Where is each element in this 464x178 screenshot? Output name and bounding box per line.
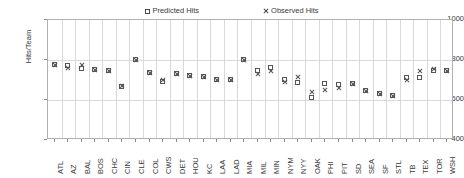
x-tick-label-laa: LAA xyxy=(219,160,227,174)
x-tick-mark xyxy=(135,139,136,142)
data-point-cross-mia xyxy=(241,57,247,63)
x-tick-mark xyxy=(81,139,82,142)
x-tick-mark xyxy=(176,139,177,142)
vertical-gridline xyxy=(278,20,279,138)
x-tick-label-tex: TEX xyxy=(422,159,430,174)
data-point-cross-cws xyxy=(160,77,166,83)
x-tick-mark xyxy=(203,139,204,142)
data-point-cross-sf xyxy=(377,91,383,97)
vertical-gridline xyxy=(373,20,374,138)
data-point-cross-tex xyxy=(417,68,423,74)
data-point-cross-chc xyxy=(106,68,112,74)
plot-area xyxy=(47,19,453,139)
vertical-gridline xyxy=(440,20,441,138)
x-tick-label-hou: HOU xyxy=(192,157,200,174)
data-point-cross-col xyxy=(147,70,153,76)
data-point-cross-tor xyxy=(431,66,437,72)
data-point-square-oak xyxy=(309,95,314,100)
data-point-cross-cle xyxy=(133,57,139,63)
x-tick-mark xyxy=(243,139,244,142)
x-tick-mark xyxy=(406,139,407,142)
vertical-gridline xyxy=(143,20,144,138)
legend-entry-observed-hits: Observed Hits xyxy=(263,7,319,15)
x-tick-mark xyxy=(121,139,122,142)
legend-label-predicted-hits: Predicted Hits xyxy=(152,7,199,15)
observed-hits-cross-icon xyxy=(263,8,269,14)
vertical-gridline xyxy=(224,20,225,138)
x-tick-mark xyxy=(149,139,150,142)
predicted-hits-square-icon xyxy=(145,9,150,14)
horizontal-gridline xyxy=(48,60,452,61)
x-tick-label-pit: PIT xyxy=(341,162,349,174)
x-tick-label-nyy: NYY xyxy=(300,159,308,174)
x-tick-label-chc: CHC xyxy=(111,158,119,174)
x-tick-label-bal: BAL xyxy=(84,160,92,174)
y-axis-title: Hits/Team xyxy=(24,17,33,77)
x-tick-label-sd: SD xyxy=(355,164,363,174)
vertical-gridline xyxy=(156,20,157,138)
scatter-chart: Predicted Hits Observed Hits Hits/Team 4… xyxy=(0,0,464,178)
x-tick-mark xyxy=(419,139,420,142)
x-tick-label-lad: LAD xyxy=(233,159,241,174)
x-tick-mark xyxy=(311,139,312,142)
x-tick-label-bos: BOS xyxy=(97,158,105,174)
vertical-gridline xyxy=(183,20,184,138)
vertical-gridline xyxy=(305,20,306,138)
data-point-cross-oak xyxy=(309,89,315,95)
vertical-gridline xyxy=(170,20,171,138)
data-point-square-tex xyxy=(417,75,422,80)
horizontal-gridline xyxy=(48,100,452,101)
x-tick-mark xyxy=(230,139,231,142)
data-point-cross-nym xyxy=(282,79,288,85)
vertical-gridline xyxy=(386,20,387,138)
y-tick-mark xyxy=(44,139,47,140)
vertical-gridline xyxy=(197,20,198,138)
x-tick-label-sf: SF xyxy=(382,164,390,174)
x-tick-mark xyxy=(108,139,109,142)
x-tick-mark xyxy=(433,139,434,142)
data-point-cross-kc xyxy=(201,74,207,80)
vertical-gridline xyxy=(89,20,90,138)
vertical-gridline xyxy=(359,20,360,138)
x-tick-label-atl: ATL xyxy=(57,161,65,174)
x-tick-mark xyxy=(94,139,95,142)
x-tick-label-wsh: WSH xyxy=(449,157,457,175)
data-point-cross-atl xyxy=(52,62,58,68)
vertical-gridline xyxy=(413,20,414,138)
data-point-square-nyy xyxy=(295,80,300,85)
vertical-gridline xyxy=(319,20,320,138)
x-tick-mark xyxy=(284,139,285,142)
data-point-cross-sd xyxy=(350,81,356,87)
vertical-gridline xyxy=(62,20,63,138)
x-tick-label-mil: MIL xyxy=(260,161,268,174)
data-point-cross-sea xyxy=(363,88,369,94)
x-tick-label-nym: NYM xyxy=(287,157,295,174)
data-point-cross-det xyxy=(174,71,180,77)
x-tick-mark xyxy=(338,139,339,142)
vertical-gridline xyxy=(265,20,266,138)
data-point-cross-wsh xyxy=(444,68,450,74)
vertical-gridline xyxy=(400,20,401,138)
data-point-cross-az xyxy=(65,65,71,71)
vertical-gridline xyxy=(292,20,293,138)
x-tick-mark xyxy=(189,139,190,142)
x-tick-mark xyxy=(324,139,325,142)
x-tick-mark xyxy=(67,139,68,142)
x-tick-label-cle: CLE xyxy=(138,159,146,174)
data-point-cross-nyy xyxy=(295,74,301,80)
legend-label-observed-hits: Observed Hits xyxy=(271,7,319,15)
x-tick-mark xyxy=(352,139,353,142)
data-point-square-phi xyxy=(322,81,327,86)
x-tick-mark xyxy=(365,139,366,142)
data-point-cross-laa xyxy=(214,77,220,83)
x-tick-label-col: COL xyxy=(152,159,160,174)
data-point-cross-stl xyxy=(390,93,396,99)
x-tick-mark xyxy=(216,139,217,142)
x-tick-mark xyxy=(379,139,380,142)
x-tick-mark xyxy=(392,139,393,142)
x-tick-label-stl: STL xyxy=(395,160,403,174)
vertical-gridline xyxy=(102,20,103,138)
data-point-cross-cin xyxy=(119,83,125,89)
chart-legend: Predicted Hits Observed Hits xyxy=(0,4,464,18)
x-tick-label-min: MIN xyxy=(273,160,281,174)
